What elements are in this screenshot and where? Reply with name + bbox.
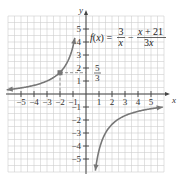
svg-text:2: 2 [77, 63, 82, 73]
x-axis-label: x [171, 95, 176, 105]
svg-text:1: 1 [97, 97, 102, 107]
y-axis-label: y [78, 5, 83, 15]
highlighted-point-marker [58, 70, 63, 75]
svg-text:2: 2 [110, 97, 115, 107]
svg-text:5: 5 [95, 63, 100, 73]
svg-text:3: 3 [119, 26, 124, 37]
svg-text:3: 3 [77, 50, 82, 60]
svg-text:−5: −5 [71, 154, 81, 164]
x-tick-labels: −5−4−3−2−112345 [16, 97, 154, 107]
svg-text:3: 3 [123, 97, 128, 107]
svg-text:−5: −5 [16, 97, 26, 107]
svg-text:−1: −1 [71, 102, 81, 112]
svg-text:5: 5 [149, 97, 154, 107]
svg-text:−: − [128, 32, 134, 43]
svg-text:4: 4 [136, 97, 141, 107]
svg-text:f(x) =: f(x) = [90, 32, 112, 44]
svg-text:1: 1 [77, 76, 82, 86]
point-y-label: 5 3 [94, 63, 101, 83]
svg-text:−4: −4 [71, 141, 81, 151]
svg-text:−4: −4 [29, 97, 39, 107]
svg-text:−2: −2 [55, 97, 65, 107]
svg-text:x + 21: x + 21 [137, 26, 163, 37]
svg-text:3x: 3x [144, 37, 154, 48]
svg-text:−3: −3 [71, 128, 81, 138]
svg-text:5: 5 [77, 24, 82, 34]
svg-text:x: x [118, 37, 124, 48]
svg-text:−2: −2 [71, 115, 81, 125]
svg-text:−3: −3 [42, 97, 52, 107]
svg-text:4: 4 [77, 37, 82, 47]
function-graph: −5−4−3−2−112345 54321−1−2−3−4−5 x y 5 3 … [0, 0, 178, 176]
svg-text:3: 3 [95, 73, 100, 83]
